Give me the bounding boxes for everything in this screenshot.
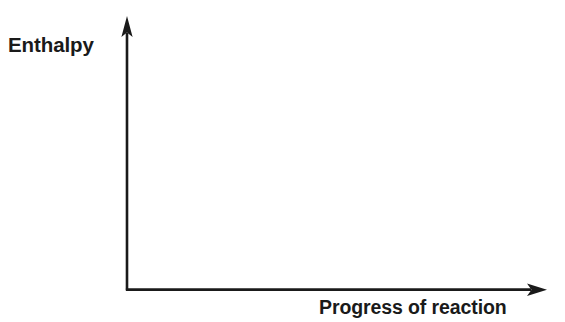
x-axis-label: Progress of reaction (319, 298, 507, 318)
plot-area (129, 18, 545, 288)
enthalpy-reaction-progress-figure: Enthalpy Progress of reaction (0, 0, 565, 322)
y-axis-label: Enthalpy (8, 35, 94, 56)
